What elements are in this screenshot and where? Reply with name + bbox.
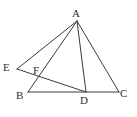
segment-a-e: [17, 21, 77, 69]
vertex-label-b: B: [16, 90, 23, 101]
segment-a-d: [77, 21, 86, 92]
vertex-label-e: E: [3, 62, 10, 73]
segment-e-d: [17, 69, 86, 92]
vertex-label-a: A: [72, 8, 80, 19]
vertex-label-c: C: [120, 88, 127, 99]
vertex-label-d: D: [80, 95, 88, 106]
segment-a-c: [77, 21, 119, 92]
vertex-label-f: F: [33, 65, 39, 76]
segments-group: [17, 21, 119, 92]
geometry-figure: AEFBDC: [0, 0, 137, 117]
